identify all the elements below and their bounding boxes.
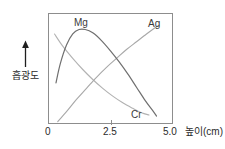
x-tick-label-5-0: 5.0 xyxy=(163,127,177,137)
chart-figure: Mg Ag Cr 흡광도 0 2.5 5.0 높이(cm) xyxy=(0,0,225,149)
plot-area xyxy=(48,13,173,124)
watermark-text xyxy=(6,0,156,14)
x-tick-label-0: 0 xyxy=(45,127,51,137)
series-label-cr: Cr xyxy=(131,110,142,120)
series-label-mg: Mg xyxy=(74,18,88,28)
curve-mg xyxy=(56,29,157,116)
up-arrow-icon xyxy=(21,40,30,68)
curve-ag xyxy=(58,25,159,122)
y-axis-title: 흡광도 xyxy=(3,70,47,81)
x-tick-label-2-5: 2.5 xyxy=(103,127,117,137)
y-axis-group: 흡광도 xyxy=(3,40,47,81)
curve-cr xyxy=(55,34,150,115)
x-axis-title: 높이(cm) xyxy=(185,127,223,137)
plot-curves-svg xyxy=(49,14,174,125)
series-label-ag: Ag xyxy=(148,19,160,29)
